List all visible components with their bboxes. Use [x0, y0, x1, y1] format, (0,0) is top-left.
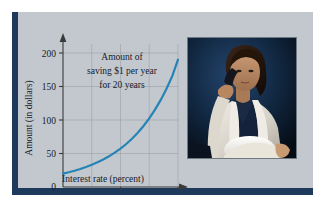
y-tick-marks [59, 53, 63, 154]
y-tick-label-100: 100 [42, 116, 57, 126]
annotation-line-3: for 20 years [99, 80, 145, 90]
y-tick-label-200: 200 [42, 49, 57, 59]
chart-svg: 200 150 100 50 0 0 10 20 Amount (in doll… [18, 14, 188, 190]
photo-eye-right [248, 70, 253, 73]
y-axis-title: Amount (in dollars) [24, 80, 35, 155]
photo-svg [188, 38, 296, 158]
annotation-line-1: Amount of [101, 52, 143, 62]
y-tick-label-50: 50 [47, 149, 57, 159]
annotation-line-2: saving $1 per year [87, 66, 158, 76]
figure-container: 200 150 100 50 0 0 10 20 Amount (in doll… [0, 0, 323, 218]
y-axis [60, 33, 67, 187]
x-axis-title-wrap: Interest rate (percent) [18, 168, 188, 186]
x-axis-title: Interest rate (percent) [62, 174, 144, 184]
line-chart: 200 150 100 50 0 0 10 20 Amount (in doll… [18, 14, 188, 190]
y-tick-label-150: 150 [42, 82, 57, 92]
photo-woman-on-phone [187, 37, 297, 159]
